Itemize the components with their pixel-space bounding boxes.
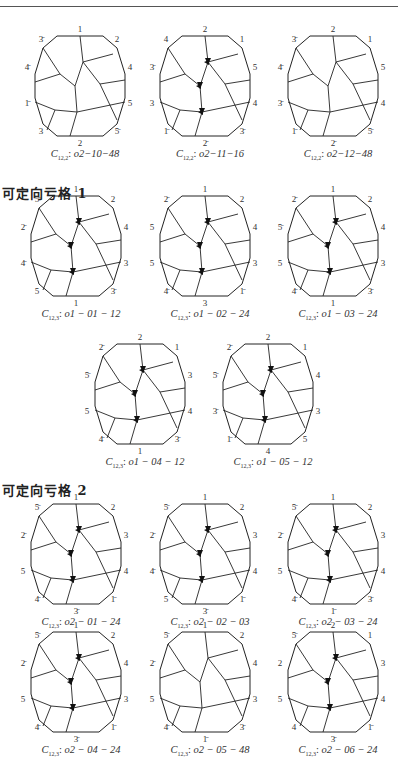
vertex-label: 3 (124, 258, 129, 268)
vertex-label: 4 (381, 98, 386, 108)
vertex-label: 2̄ (21, 222, 28, 232)
vertex-label: 2 (138, 332, 143, 342)
decagon-map-diagram: 21545̄2̄1̄3̄4̄3̄ (278, 32, 398, 147)
decagon-map-diagram: 21343̄14̄55̄2̄ (85, 340, 205, 455)
vertex-label: 3̄ (292, 34, 299, 44)
figure-f9: 12341̄3̄4̄52̄5̄ C12,3: o2 − 01 − 24 (21, 500, 141, 615)
vertex-label: 5 (21, 566, 26, 576)
vertex-label: 5̄ (164, 502, 171, 512)
vertex-label: 3 (253, 530, 258, 540)
figure-caption: C12,3: o1 − 02 − 24 (150, 308, 270, 321)
vertex-label: 3̄ (278, 98, 285, 108)
decagon-map-diagram: 12433̄154̄2̄5̄ (21, 192, 141, 307)
vertex-label: 4̄ (164, 286, 171, 296)
vertex-label: 3 (124, 530, 129, 540)
figure-f2: 21543̄2̄1̄33̄4 C12,2: o2−11−16 (150, 32, 270, 147)
figure-caption: C12,3: o1 − 01 − 12 (21, 308, 141, 321)
vertex-label: 3̄ (203, 606, 210, 616)
vertex-label: 3̄ (39, 34, 46, 44)
vertex-label: 4̄ (292, 286, 299, 296)
vertex-label: 2̄ (331, 138, 338, 148)
vertex-label: 4̄ (150, 566, 157, 576)
figure-caption: C12,3: o1 − 04 − 12 (85, 456, 205, 469)
figure-f7: 21343̄14̄55̄2̄ C12,3: o1 − 04 − 12 (85, 340, 205, 455)
vertex-label: 4̄ (21, 258, 28, 268)
vertex-label: 1 (74, 184, 79, 194)
vertex-label: 1 (74, 620, 79, 630)
vertex-label: 2 (115, 34, 120, 44)
vertex-label: 1̄ (240, 286, 247, 296)
vertex-label: 5 (253, 62, 258, 72)
vertex-label: 1 (138, 446, 143, 456)
vertex-label: 2̄ (278, 530, 285, 540)
vertex-label: 1 (331, 298, 336, 308)
vertex-label: 2 (240, 630, 245, 640)
vertex-label: 5 (150, 222, 155, 232)
vertex-label: 2̄ (292, 194, 299, 204)
vertex-label: 3 (39, 126, 44, 136)
vertex-label: 5 (278, 258, 283, 268)
vertex-label: 2 (111, 630, 116, 640)
figure-f3: 21545̄2̄1̄3̄4̄3̄ C12,2: o2−12−48 (278, 32, 398, 147)
vertex-label: 2̄ (164, 194, 171, 204)
vertex-label: 1 (175, 342, 180, 352)
vertex-label: 1 (78, 24, 83, 34)
vertex-label: 5̄ (115, 126, 122, 136)
vertex-label: 5̄ (292, 630, 299, 640)
vertex-label: 5̄ (35, 194, 42, 204)
vertex-label: 1 (74, 492, 79, 502)
figure-caption: C12,3: o1 − 05 − 12 (213, 456, 333, 469)
vertex-label: 2 (266, 332, 271, 342)
vertex-label: 3̄ (368, 286, 375, 296)
vertex-label: 2̄ (150, 530, 157, 540)
decagon-map-diagram: 12341̄3̄4̄52̄5̄ (21, 500, 141, 615)
vertex-label: 2 (368, 502, 373, 512)
vertex-label: 3 (253, 694, 258, 704)
figure-caption: C12,2: o2−12−48 (278, 148, 398, 161)
vertex-label: 4 (253, 98, 258, 108)
vertex-label: 4̄ (164, 722, 171, 732)
vertex-label: 4 (381, 222, 386, 232)
decagon-map-diagram: 21341̄3̄4525̄ (278, 628, 398, 743)
vertex-label: 4̄ (292, 594, 299, 604)
vertex-label: 4 (124, 222, 129, 232)
vertex-label: 4̄ (35, 722, 42, 732)
vertex-label: 2 (111, 194, 116, 204)
vertex-label: 4 (164, 34, 169, 44)
vertex-label: 1̄ (164, 126, 171, 136)
vertex-label: 4 (292, 722, 297, 732)
vertex-label: 4 (266, 446, 271, 456)
vertex-label: 4̄ (278, 62, 285, 72)
vertex-label: 1 (368, 630, 373, 640)
figure-caption: C12,3: o1 − 03 − 24 (278, 308, 398, 321)
vertex-label: 5̄ (278, 222, 285, 232)
vertex-label: 5̄ (164, 630, 171, 640)
decagon-map-diagram: 12431̄34̄552̄ (150, 192, 270, 307)
vertex-label: 1 (240, 34, 245, 44)
decagon-map-diagram: 12431̄3̄4̄52̄5̄ (21, 628, 141, 743)
vertex-label: 2 (331, 24, 336, 34)
vertex-label: 2 (78, 138, 83, 148)
vertex-label: 2 (111, 502, 116, 512)
vertex-label: 3̄ (368, 594, 375, 604)
decagon-map-diagram: 12343̄1̄4̄52̄5̄ (278, 500, 398, 615)
vertex-label: 3 (381, 530, 386, 540)
vertex-label: 1 (331, 184, 336, 194)
vertex-label: 5̄ (368, 126, 375, 136)
vertex-label: 3̄ (74, 734, 81, 744)
vertex-label: 1̄ (331, 606, 338, 616)
vertex-label: 4 (381, 694, 386, 704)
vertex-label: 1̄ (227, 434, 234, 444)
vertex-label: 1̄ (368, 722, 375, 732)
vertex-label: 1̄ (111, 722, 118, 732)
vertex-label: 2 (240, 194, 245, 204)
decagon-map-diagram: 12455̄231̄4̄3̄ (25, 32, 145, 147)
vertex-label: 1̄ (203, 734, 210, 744)
vertex-label: 1̄ (240, 594, 247, 604)
vertex-label: 2̄ (227, 342, 234, 352)
vertex-label: 4 (316, 370, 321, 380)
figure-f4: 12433̄154̄2̄5̄ C12,3: o1 − 01 − 12 (21, 192, 141, 307)
vertex-label: 3 (381, 658, 386, 668)
vertex-label: 3 (150, 98, 155, 108)
vertex-label: 1 (203, 492, 208, 502)
